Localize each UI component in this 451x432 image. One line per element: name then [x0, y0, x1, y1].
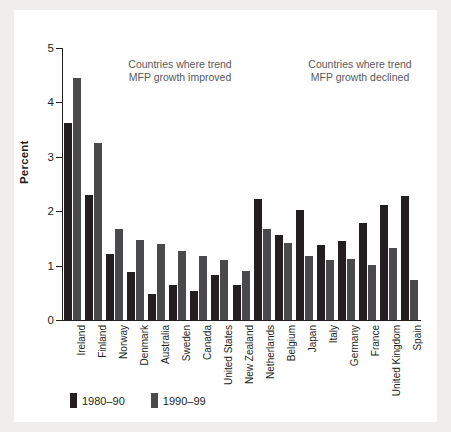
bar-netherlands-series-1 — [263, 229, 271, 320]
bar-group — [211, 48, 228, 320]
bar-spain-series-1 — [410, 280, 418, 320]
bar-ireland-series-0 — [64, 123, 72, 320]
bar-group — [296, 48, 313, 320]
bar-group — [275, 48, 292, 320]
bar-sweden-series-1 — [178, 251, 186, 320]
bar-canada-series-1 — [199, 256, 207, 320]
bar-group — [317, 48, 334, 320]
x-tick-label: Belgium — [287, 325, 297, 361]
bar-netherlands-series-0 — [254, 199, 262, 320]
bar-group — [401, 48, 418, 320]
x-tick-label: Finland — [98, 325, 108, 358]
legend-item-0: 1980–90 — [70, 393, 125, 408]
bar-new-zealand-series-1 — [242, 271, 250, 320]
bar-united-states-series-0 — [211, 275, 219, 320]
x-tick-label: New Zealand — [245, 325, 255, 384]
bar-italy-series-1 — [326, 260, 334, 320]
chart-figure: Percent 012345 IrelandFinlandNorwayDenma… — [14, 10, 437, 422]
bar-group — [254, 48, 271, 320]
x-tick-label: Japan — [308, 325, 318, 352]
legend-swatch-icon — [70, 393, 77, 408]
annotation-declined: Countries where trend MFP growth decline… — [290, 58, 430, 84]
bar-group — [127, 48, 144, 320]
x-tick-label: United Kingdom — [392, 325, 402, 396]
bar-spain-series-0 — [401, 196, 409, 320]
x-tick-label: France — [371, 325, 381, 356]
bar-group — [233, 48, 250, 320]
bar-sweden-series-0 — [169, 285, 177, 320]
legend-swatch-icon — [151, 393, 158, 408]
bar-group — [169, 48, 186, 320]
bar-france-series-1 — [368, 265, 376, 320]
x-tick-label: Spain — [413, 325, 423, 351]
bar-belgium-series-1 — [284, 243, 292, 320]
bar-new-zealand-series-0 — [233, 285, 241, 320]
legend-label: 1990–99 — [163, 395, 206, 407]
y-axis-label: Percent — [18, 140, 30, 184]
y-tick-label: 2 — [40, 203, 54, 219]
x-tick-label: Ireland — [77, 325, 87, 356]
bar-australia-series-0 — [148, 294, 156, 320]
y-tick-label: 5 — [40, 40, 54, 56]
x-tick-label: Denmark — [140, 325, 150, 366]
bar-norway-series-0 — [106, 254, 114, 320]
bar-france-series-0 — [359, 223, 367, 320]
bar-denmark-series-0 — [127, 272, 135, 320]
plot-area — [62, 48, 420, 320]
bar-group — [359, 48, 376, 320]
x-axis-line — [62, 320, 421, 321]
bar-group — [106, 48, 123, 320]
bar-group — [380, 48, 397, 320]
bar-australia-series-1 — [157, 244, 165, 320]
chart-legend: 1980–901990–99 — [70, 393, 206, 408]
bar-ireland-series-1 — [73, 78, 81, 320]
y-tick-label: 1 — [40, 258, 54, 274]
x-tick-label: United States — [224, 325, 234, 385]
x-tick-label: Sweden — [182, 325, 192, 361]
x-tick-label: Norway — [119, 325, 129, 359]
bar-japan-series-0 — [296, 210, 304, 320]
y-tick-label: 4 — [40, 94, 54, 110]
annotation-improved: Countries where trend MFP growth improve… — [110, 58, 250, 84]
bar-denmark-series-1 — [136, 240, 144, 321]
bar-canada-series-0 — [190, 291, 198, 320]
legend-item-1: 1990–99 — [151, 393, 206, 408]
bar-japan-series-1 — [305, 256, 313, 320]
y-tick-label: 3 — [40, 149, 54, 165]
bar-group — [85, 48, 102, 320]
x-tick-label: Netherlands — [266, 325, 276, 379]
y-tick-mark — [56, 320, 63, 321]
x-tick-label: Germany — [350, 325, 360, 366]
bar-group — [148, 48, 165, 320]
bar-united-kingdom-series-1 — [389, 248, 397, 320]
legend-label: 1980–90 — [82, 395, 125, 407]
x-tick-label: Canada — [203, 325, 213, 360]
bar-italy-series-0 — [317, 245, 325, 320]
bar-group — [338, 48, 355, 320]
bar-group — [190, 48, 207, 320]
bar-finland-series-1 — [94, 143, 102, 320]
bar-norway-series-1 — [115, 229, 123, 320]
bar-group — [64, 48, 81, 320]
x-tick-label: Australia — [161, 325, 171, 364]
bar-belgium-series-0 — [275, 235, 283, 320]
y-tick-label: 0 — [40, 312, 54, 328]
bar-united-kingdom-series-0 — [380, 205, 388, 320]
bar-germany-series-1 — [347, 259, 355, 320]
bar-united-states-series-1 — [220, 260, 228, 320]
bar-finland-series-0 — [85, 195, 93, 320]
bar-germany-series-0 — [338, 241, 346, 320]
x-tick-label: Italy — [329, 325, 339, 343]
